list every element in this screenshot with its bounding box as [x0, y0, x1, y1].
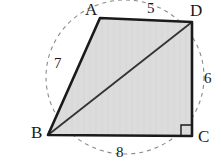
side-length-label-ab: 7 — [54, 56, 62, 71]
vertex-label-a: A — [85, 1, 97, 18]
vertex-label-b: B — [31, 124, 42, 141]
vertex-label-d: D — [190, 2, 202, 19]
geometry-figure: A D C B 5 6 8 7 — [0, 0, 221, 165]
side-length-label-dc: 6 — [204, 71, 212, 86]
side-length-label-bc: 8 — [116, 145, 124, 160]
vertex-label-c: C — [198, 128, 209, 145]
side-length-label-ad: 5 — [147, 1, 155, 16]
